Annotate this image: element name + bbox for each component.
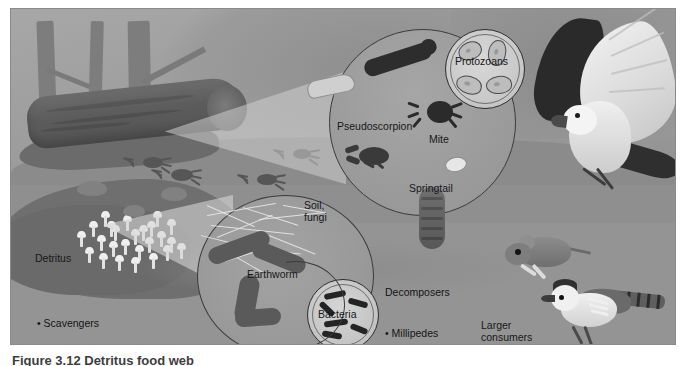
label-soil-fungi-line1: Soil,	[304, 199, 324, 211]
label-larger-consumers-line1: Larger	[481, 319, 511, 331]
crab-icon	[257, 174, 277, 185]
page-root: Detritus Earthworm Bacteria Soil, fungi …	[0, 0, 687, 366]
rock	[77, 181, 107, 196]
mushroom-icon	[85, 247, 94, 263]
illustration-scene: Detritus Earthworm Bacteria Soil, fungi …	[11, 9, 675, 344]
figure-panel: Detritus Earthworm Bacteria Soil, fungi …	[10, 8, 676, 345]
mushroom-icon	[115, 255, 124, 271]
figure-caption: Figure 3.12 Detritus food web	[12, 353, 512, 366]
mushroom-icon	[97, 235, 106, 251]
label-mite: Mite	[429, 133, 449, 145]
protozoan-inset-bubble	[445, 29, 525, 109]
rock	[161, 187, 187, 201]
label-pseudoscorpion: Pseudoscorpion	[337, 120, 412, 132]
mushroom-icon	[121, 239, 130, 255]
decomposers-heading: Decomposers	[385, 286, 451, 300]
decomposers-list: Decomposers • Millipedes • Protozoans • …	[385, 259, 451, 345]
pseudoscorpion-icon	[359, 147, 389, 165]
mushroom-icon	[99, 253, 108, 269]
rock	[123, 205, 145, 217]
eagle-icon	[523, 17, 676, 197]
insect-larva-icon	[419, 187, 445, 249]
mite-icon	[427, 101, 453, 123]
label-soil-fungi-line2: fungi	[304, 211, 327, 223]
label-larger-consumers-line2: consumers	[481, 331, 532, 343]
mushroom-icon	[149, 253, 158, 269]
jay-bird-icon	[539, 283, 665, 345]
label-springtail: Springtail	[409, 182, 453, 194]
crab-icon	[171, 169, 193, 181]
label-detritus: Detritus	[35, 252, 71, 264]
label-bacteria: Bacteria	[318, 308, 357, 320]
list-item: • Scavengers	[37, 317, 210, 331]
list-item: • Millipedes	[385, 327, 451, 341]
mushroom-icon	[77, 231, 86, 247]
mouse-icon	[503, 231, 589, 275]
crab-icon	[143, 157, 163, 168]
label-earthworm: Earthworm	[247, 268, 298, 280]
mushroom-icon	[131, 257, 140, 273]
label-protozoans: Protozoans	[455, 55, 508, 67]
scavenger-list: • Scavengers • Earthworms • Bacteria and…	[37, 290, 210, 345]
